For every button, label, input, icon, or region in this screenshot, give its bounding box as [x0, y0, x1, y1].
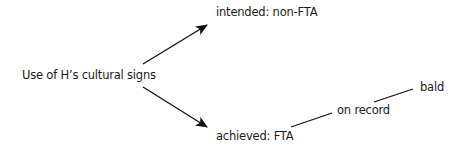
line-to-bald	[374, 89, 413, 102]
arrow-to-achieved	[143, 87, 207, 127]
intended-node-label: intended: non-FTA	[216, 7, 317, 19]
bald-node-label: bald	[420, 82, 444, 94]
arrow-to-intended	[143, 25, 207, 64]
line-to-on-record	[291, 113, 332, 127]
on-record-node-label: on record	[337, 105, 390, 117]
root-node-label: Use of H’s cultural signs	[22, 70, 156, 82]
achieved-node-label: achieved: FTA	[216, 131, 293, 143]
